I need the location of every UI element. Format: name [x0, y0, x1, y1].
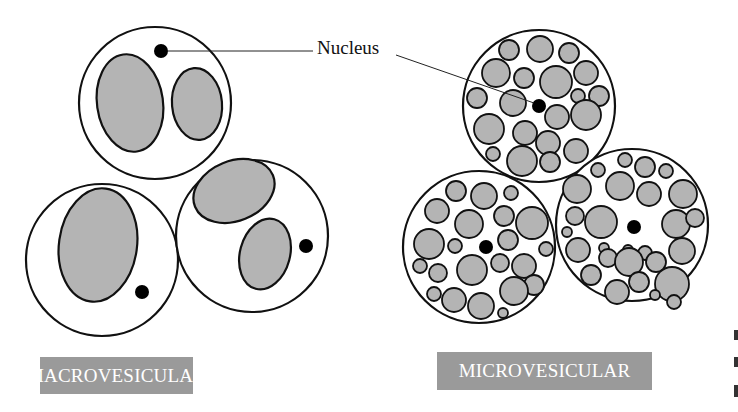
fat-droplet [468, 293, 494, 319]
fat-droplet [581, 265, 601, 285]
fat-droplet [471, 183, 497, 209]
fat-droplet [591, 163, 605, 177]
fat-droplet [662, 210, 690, 238]
fat-droplet [504, 186, 518, 200]
fat-droplet [514, 68, 534, 88]
page-edge-mark [734, 385, 738, 397]
diagram-canvas [0, 0, 738, 412]
nucleus [154, 44, 168, 58]
fat-droplet [545, 105, 569, 129]
fat-droplet [585, 206, 617, 238]
fat-droplet [507, 146, 537, 176]
nucleus [135, 285, 149, 299]
macro-cell [176, 147, 328, 312]
fat-droplet [491, 254, 509, 272]
fat-droplet [571, 100, 601, 130]
micro-cell [403, 171, 555, 323]
fat-droplet [606, 172, 634, 200]
nucleus [479, 240, 493, 254]
fat-droplet [498, 308, 508, 318]
fat-droplet [427, 287, 441, 301]
fat-droplet [413, 259, 427, 273]
fat-droplet [500, 90, 526, 116]
fat-droplet [539, 242, 553, 256]
fat-droplet [513, 121, 537, 145]
fat-droplet [425, 199, 449, 223]
fat-droplet [516, 207, 548, 239]
macrovesicular-cells [26, 27, 328, 336]
fat-droplet [498, 230, 518, 250]
fat-droplet [414, 229, 444, 259]
fat-droplet [467, 88, 487, 108]
fat-droplet [605, 280, 629, 304]
fat-droplet [566, 207, 584, 225]
fat-droplet [659, 164, 673, 178]
microvesicular-label: MICROVESICULAR [437, 352, 652, 390]
fat-droplet [429, 264, 447, 282]
fat-droplet [446, 181, 466, 201]
fat-droplet [650, 290, 660, 300]
nucleus-callout-label: Nucleus [317, 37, 379, 59]
micro-cell [556, 149, 708, 309]
fat-droplet [482, 59, 510, 87]
fat-droplet [566, 238, 590, 262]
macrovesicular-label: MACROVESICULAR [40, 357, 193, 394]
fat-droplet [669, 180, 697, 208]
fat-droplet [527, 36, 553, 62]
fat-droplet [574, 61, 598, 85]
fat-droplet [635, 157, 655, 177]
macro-cell [79, 27, 231, 179]
fat-droplet [669, 238, 695, 264]
fat-droplet [562, 227, 572, 237]
fat-droplet [618, 153, 632, 167]
page-edge-mark [734, 330, 738, 340]
nucleus [532, 99, 546, 113]
nucleus [627, 220, 641, 234]
fat-droplet [500, 277, 528, 305]
microvesicular-cells [403, 30, 708, 323]
fat-droplet [564, 139, 588, 163]
fat-droplet [563, 175, 591, 203]
fat-droplet [559, 43, 579, 63]
fat-droplet [540, 152, 560, 172]
fat-droplet [629, 272, 649, 292]
fat-droplet [499, 40, 519, 60]
fat-droplet [448, 239, 462, 253]
fat-droplet [457, 255, 487, 285]
nucleus [299, 239, 313, 253]
fat-droplet [667, 295, 681, 309]
fat-droplet [455, 210, 483, 238]
page-edge-mark [734, 357, 738, 367]
macro-cell [26, 183, 178, 336]
fat-droplet [486, 147, 500, 161]
fat-droplet [474, 114, 504, 144]
fat-droplet [540, 66, 572, 98]
fat-droplet [686, 209, 704, 227]
fat-droplet [637, 182, 661, 206]
fat-droplet [442, 288, 466, 312]
fat-droplet [494, 206, 514, 226]
